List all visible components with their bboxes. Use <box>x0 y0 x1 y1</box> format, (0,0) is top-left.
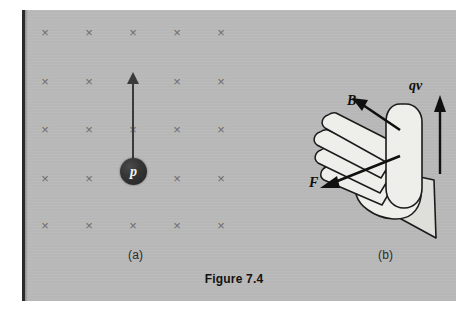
vector-label-F: F <box>309 175 318 191</box>
field-into-page-mark: × <box>214 123 228 137</box>
field-into-page-mark: × <box>214 219 228 233</box>
velocity-arrow-shaft <box>132 80 134 170</box>
proton-particle: p <box>120 158 147 185</box>
thumb <box>386 104 422 208</box>
vector-label-qv: qv <box>409 78 422 94</box>
field-into-page-mark: × <box>82 123 96 137</box>
field-into-page-mark: × <box>170 172 184 186</box>
field-into-page-mark: × <box>38 26 52 40</box>
field-into-page-mark: × <box>214 75 228 89</box>
field-into-page-mark: × <box>214 172 228 186</box>
figure-7-4: ××××××××××××××××××××××× p (a) <box>0 0 468 310</box>
field-into-page-mark: × <box>82 75 96 89</box>
field-into-page-mark: × <box>82 172 96 186</box>
field-into-page-mark: × <box>214 26 228 40</box>
field-into-page-mark: × <box>126 26 140 40</box>
field-into-page-mark: × <box>38 219 52 233</box>
vector-arrow-qv <box>434 95 446 174</box>
field-into-page-mark: × <box>82 219 96 233</box>
scan-gutter-shadow <box>25 10 28 301</box>
field-into-page-mark: × <box>170 75 184 89</box>
field-into-page-mark: × <box>170 219 184 233</box>
field-into-page-mark: × <box>126 219 140 233</box>
field-into-page-mark: × <box>82 26 96 40</box>
hand-illustration <box>296 62 456 247</box>
field-into-page-mark: × <box>170 26 184 40</box>
field-into-page-mark: × <box>38 75 52 89</box>
field-into-page-mark: × <box>170 123 184 137</box>
velocity-arrow-head <box>127 72 139 84</box>
panel-b-caption: (b) <box>378 248 393 262</box>
field-into-page-mark: × <box>38 123 52 137</box>
panel-a-caption: (a) <box>128 248 143 262</box>
vector-label-B: B <box>347 93 356 109</box>
proton-label: p <box>120 158 147 185</box>
field-into-page-mark: × <box>38 172 52 186</box>
figure-caption: Figure 7.4 <box>0 272 468 286</box>
